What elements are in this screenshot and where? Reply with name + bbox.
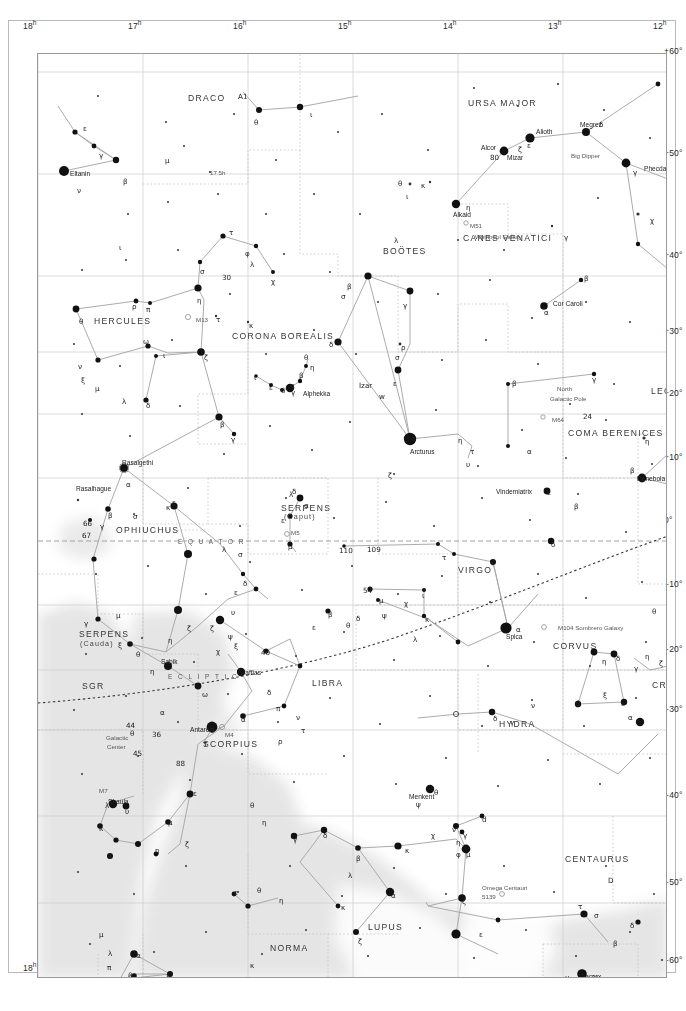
greek-label-176: ψ (416, 801, 421, 808)
greek-label-166: α (391, 892, 396, 899)
constellation-label-norma-22: NORMA (270, 944, 309, 953)
star-label-sabik: Sabik (161, 659, 178, 666)
greek-label-118: η (602, 658, 607, 665)
greek-label-67: β (512, 380, 517, 387)
ra-tick-top-15h: 15h (338, 19, 352, 31)
greek-label-16: κ (421, 182, 425, 189)
greek-label-74: β (574, 503, 579, 510)
greek-label-92: η (150, 668, 155, 675)
greek-label-164: η (456, 839, 461, 846)
greek-label-2: β (123, 178, 128, 185)
greek-label-53: β (347, 283, 352, 290)
greek-label-143: 40 (261, 649, 270, 656)
greek-label-78: 67 (82, 532, 91, 539)
greek-label-72: β (630, 467, 635, 474)
star-label-menkent: Menkent (409, 794, 434, 801)
greek-label-192: ε (234, 889, 238, 896)
greek-label-58: σ (395, 354, 400, 361)
ra-tick-bottom-18h: 18h (23, 961, 37, 973)
greek-label-119: δ (616, 655, 620, 662)
greek-label-87: ε (234, 589, 238, 596)
ra-tick-top-17h: 17h (128, 19, 142, 31)
greek-label-17: ι (406, 193, 408, 200)
greek-label-11: ε (527, 142, 531, 149)
dso-label-10: Galactic (106, 735, 128, 741)
greek-label-12: δ (599, 121, 603, 128)
greek-label-102: 109 (367, 546, 381, 553)
greek-label-60: ε (393, 380, 397, 387)
greek-label-99: μ (288, 543, 293, 550)
star-label-eltanin: Eltanin (70, 171, 90, 178)
greek-label-28: η (197, 297, 202, 304)
greek-label-18: λ (394, 237, 398, 244)
greek-label-76: α (126, 481, 131, 488)
greek-label-134: π (276, 705, 280, 712)
greek-label-9: ζ (518, 146, 522, 153)
star-label-spica: Spica (506, 634, 523, 641)
greek-label-8: η (466, 204, 471, 211)
constellation-label-hercules-4: HERCULES (94, 317, 151, 326)
greek-label-144: α (160, 709, 165, 716)
greek-label-101: 110 (339, 547, 353, 554)
greek-label-120: γ (634, 665, 638, 672)
constellation-label-ophiuchus-8: OPHIUCHUS (116, 526, 179, 535)
dso-label-12: Omega Centauri (482, 885, 527, 891)
star-label-rasalgethi: Rasalgethi (122, 460, 153, 467)
star-label-alkaid: Alkaid (453, 212, 471, 219)
greek-label-108: 54 (363, 587, 372, 594)
constellation-label-hydra-18: HYDRA (499, 720, 536, 729)
greek-label-97: α (304, 502, 309, 509)
greek-label-115: λ (413, 636, 417, 643)
dso-label-8: M4 (225, 732, 234, 738)
greek-label-188: ζ (166, 974, 170, 978)
greek-label-73: ε (547, 489, 551, 496)
greek-label-13: γ (633, 169, 637, 176)
greek-label-3: ν (77, 187, 81, 194)
star-label-arcturus: Arcturus (410, 449, 435, 456)
greek-label-69: α (527, 448, 532, 455)
greek-label-130: α (241, 716, 246, 723)
star-label-shaula: Shaula (108, 799, 129, 806)
greek-label-0: ε (83, 125, 87, 132)
greek-label-61: w (379, 393, 385, 400)
constellation-label-lupus-21: LUPUS (368, 923, 403, 932)
greek-label-95: ξ (118, 642, 122, 649)
greek-label-25: χ (271, 278, 275, 285)
star-label-rasalhague: Rasalhague (76, 486, 111, 493)
greek-label-94: η (168, 637, 173, 644)
greek-label-149: 88 (176, 760, 185, 767)
greek-label-128: γ (510, 719, 514, 726)
greek-label-51: γ (291, 389, 295, 396)
greek-label-89: ζ (210, 625, 214, 632)
greek-label-64: τ (470, 448, 474, 455)
dso-label-9: M7 (99, 788, 108, 794)
sky-map[interactable]: DRACOURSA MAJORBOÖTESCANES VENATICIHERCU… (37, 53, 667, 978)
greek-label-155: θ (107, 853, 111, 860)
greek-label-114: δ (356, 615, 360, 622)
greek-label-6: θ (254, 119, 258, 126)
greek-label-65: υ (466, 461, 470, 468)
greek-label-44: κ (249, 322, 253, 329)
star-chart-page: 18h17h16h15h14h13h12h 18h17h16h15h14h13h… (0, 0, 686, 1011)
greek-label-41: γ (231, 436, 235, 443)
greek-label-165: λ (348, 872, 352, 879)
star-label-gacrux: Gacrux (580, 974, 601, 978)
greek-label-147: 36 (152, 731, 161, 738)
star-label-denebola: Denebola (637, 476, 665, 483)
greek-label-22: ι (119, 244, 121, 251)
greek-label-29: θ (79, 318, 83, 325)
dso-label-0: M13 (196, 317, 208, 323)
greek-label-5: A1 (238, 93, 248, 100)
greek-label-43: τ (216, 316, 220, 323)
dso-label-11: Center (107, 744, 126, 750)
star-label-vindemiatrix: Vindemiatrix (496, 489, 532, 496)
greek-label-66: ζ (388, 472, 392, 479)
star-label-graffias: Graffias (238, 670, 261, 677)
greek-label-178: d (482, 816, 487, 823)
greek-label-170: μ (466, 851, 471, 858)
greek-label-167: ζ (358, 938, 362, 945)
greek-label-52: α (290, 382, 295, 389)
greek-label-10: 80 (490, 154, 499, 161)
greek-label-194: η (279, 897, 284, 904)
greek-label-152: υ (125, 808, 129, 815)
